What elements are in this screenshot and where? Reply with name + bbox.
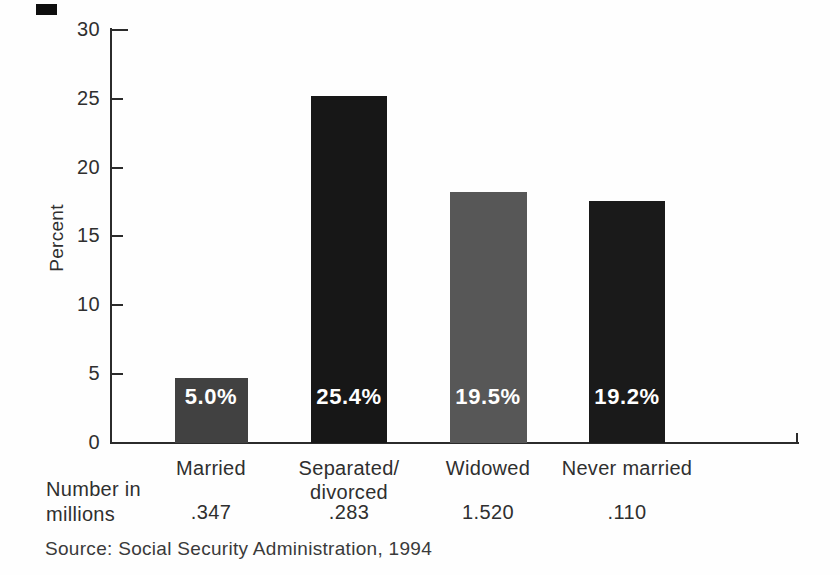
millions-value: .110 <box>565 501 689 524</box>
bar-value-label: 25.4% <box>287 384 411 410</box>
y-tick-label: 10 <box>56 293 100 316</box>
x-axis-end-tick <box>796 433 798 443</box>
category-label: Never married <box>542 456 712 480</box>
number-in-millions-line1: Number in <box>46 477 141 502</box>
y-tick-label: 0 <box>56 431 100 454</box>
y-tick-label: 5 <box>56 362 100 385</box>
millions-value: .347 <box>149 501 273 524</box>
y-tick <box>112 98 123 100</box>
y-tick <box>112 29 128 31</box>
y-tick <box>112 167 123 169</box>
bar-value-label: 5.0% <box>149 384 273 410</box>
bar-chart: Percent 0510152025305.0%Married.34725.4%… <box>0 0 840 575</box>
number-in-millions-line2: millions <box>46 502 141 527</box>
y-tick <box>112 304 123 306</box>
print-artifact-mark <box>36 4 57 15</box>
y-tick <box>112 235 123 237</box>
bar-value-label: 19.2% <box>565 384 689 410</box>
y-tick-label: 25 <box>56 87 100 110</box>
y-tick-label: 30 <box>56 18 100 41</box>
y-tick-label: 20 <box>56 156 100 179</box>
millions-value: 1.520 <box>426 501 550 524</box>
y-tick-label: 15 <box>56 224 100 247</box>
y-tick <box>112 373 123 375</box>
number-in-millions-label: Number in millions <box>46 477 141 527</box>
source-note: Source: Social Security Administration, … <box>45 538 432 560</box>
millions-value: .283 <box>287 501 411 524</box>
bar-value-label: 19.5% <box>426 384 550 410</box>
